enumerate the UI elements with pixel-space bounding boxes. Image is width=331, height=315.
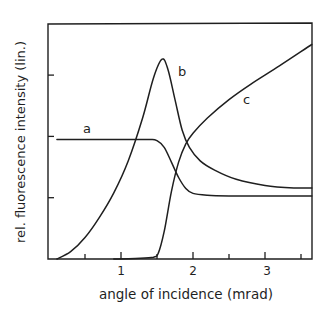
x-tick-label-2: 2 — [189, 264, 197, 278]
y-axis-label: rel. fluorescence intensity (lin.) — [13, 41, 28, 243]
chart-canvas — [0, 0, 331, 315]
x-tick-label-1: 1 — [117, 264, 125, 278]
curve-label-b: b — [178, 64, 186, 79]
curve-c — [114, 45, 312, 260]
plot-frame — [48, 23, 312, 259]
curve-label-a: a — [83, 121, 91, 136]
curve-label-c: c — [243, 92, 250, 107]
x-axis-label: angle of incidence (mrad) — [99, 286, 273, 302]
axis-ticks — [48, 75, 301, 259]
x-tick-label-3: 3 — [263, 264, 271, 278]
curve-b — [57, 59, 312, 259]
